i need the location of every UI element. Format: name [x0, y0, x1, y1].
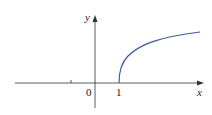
x-axis-arrow-icon: [197, 81, 204, 86]
one-label: 1: [116, 86, 122, 98]
sqrt-curve: [119, 32, 200, 83]
x-axis-label: x: [196, 86, 202, 98]
origin-label: 0: [86, 86, 92, 98]
graph: y x 0 1: [0, 0, 212, 115]
y-axis-arrow-icon: [93, 15, 98, 22]
y-axis-label: y: [84, 11, 90, 23]
